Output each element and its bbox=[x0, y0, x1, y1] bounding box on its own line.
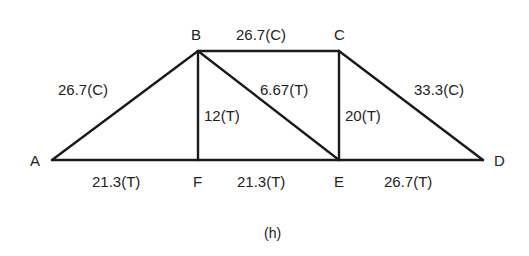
member-be bbox=[198, 51, 339, 160]
force-label-be: 6.67(T) bbox=[260, 82, 308, 97]
force-label-bf: 12(T) bbox=[204, 108, 240, 123]
node-label-e: E bbox=[334, 174, 344, 189]
force-label-fe: 21.3(T) bbox=[237, 174, 285, 189]
node-label-d: D bbox=[494, 153, 505, 168]
force-label-ed: 26.7(T) bbox=[384, 174, 432, 189]
member-ab bbox=[52, 51, 198, 160]
force-label-cd: 33.3(C) bbox=[414, 82, 464, 97]
node-label-c: C bbox=[334, 27, 345, 42]
figure-caption: (h) bbox=[264, 226, 281, 240]
node-label-b: B bbox=[191, 27, 201, 42]
force-label-ab: 26.7(C) bbox=[58, 82, 108, 97]
force-label-bc: 26.7(C) bbox=[236, 27, 286, 42]
force-label-ce: 20(T) bbox=[345, 108, 381, 123]
node-label-f: F bbox=[193, 174, 202, 189]
force-label-af: 21.3(T) bbox=[92, 174, 140, 189]
node-label-a: A bbox=[30, 153, 40, 168]
member-cd bbox=[339, 51, 483, 160]
